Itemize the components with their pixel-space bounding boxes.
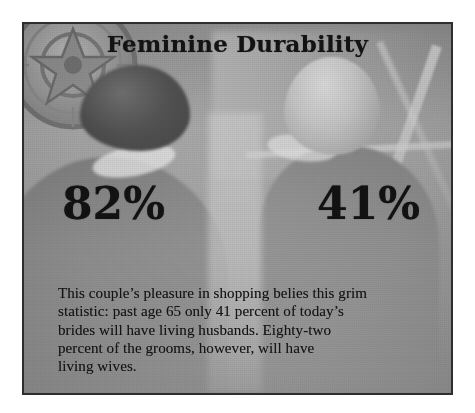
stat-value-grooms: 82% [62, 182, 165, 226]
caption-line-2: statistic: past age 65 only 41 percent o… [58, 302, 427, 320]
caption-line-5: living wives. [58, 357, 427, 375]
stat-value-brides: 41% [317, 182, 420, 226]
caption-line-3: brides will have living husbands. Eighty… [58, 321, 427, 339]
magazine-clipping: Feminine Durability 82% 41% This couple’… [22, 22, 453, 395]
statistics-row: 82% 41% [24, 182, 451, 226]
caption-line-1: This couple’s pleasure in shopping belie… [58, 284, 427, 302]
caption-line-4: percent of the grooms, however, will hav… [58, 339, 427, 357]
caption-text: This couple’s pleasure in shopping belie… [58, 284, 427, 375]
clipping-content: Feminine Durability 82% 41% This couple’… [24, 24, 451, 393]
page: Feminine Durability 82% 41% This couple’… [0, 0, 475, 413]
headline: Feminine Durability [24, 30, 451, 57]
